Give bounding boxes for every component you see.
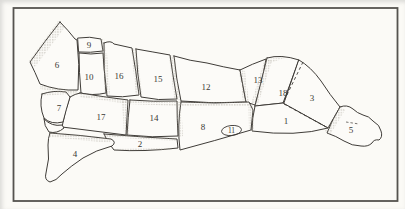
region-15-label: 15 [154,74,164,84]
region-8-path [179,102,253,150]
region-9-label: 9 [87,40,92,50]
region-1-label: 1 [284,116,289,126]
region-4-label: 4 [73,149,78,159]
region-5-label: 5 [349,125,354,135]
region-17-label: 17 [97,112,107,122]
region-18-label: 18 [279,88,289,98]
region-2-label: 2 [138,139,143,149]
region-10-label: 10 [85,72,95,82]
region-13-label: 13 [254,75,264,85]
region-11-label: 11 [228,126,235,135]
region-8-label: 8 [201,122,206,132]
region-3-label: 3 [310,93,315,103]
beef-cuts-diagram: 1 2 3 4 5 6 7 8 9 10 11 12 13 14 15 16 1… [0,0,405,209]
region-7-label: 7 [57,103,62,113]
scanned-page: 1 2 3 4 5 6 7 8 9 10 11 12 13 14 15 16 1… [0,0,405,209]
region-6-label: 6 [55,60,60,70]
region-16-label: 16 [115,71,125,81]
region-12-label: 12 [202,82,211,92]
region-12-path [174,56,246,103]
region-14-label: 14 [150,113,160,123]
